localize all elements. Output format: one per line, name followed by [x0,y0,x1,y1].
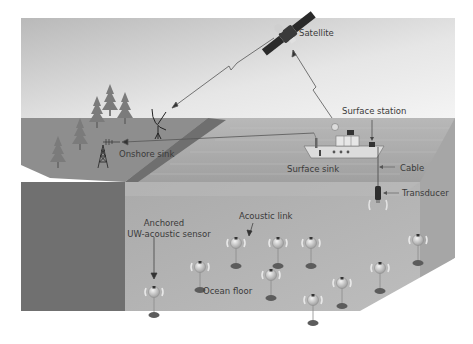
land-cliff [21,182,125,311]
label-onshore-sink: Onshore sink [119,149,174,159]
label-anchored-sensor-line1: Anchored [134,218,194,228]
sky [21,18,455,118]
label-ocean-floor: Ocean floor [203,286,252,296]
label-surface-sink: Surface sink [287,164,339,174]
label-satellite: Satellite [299,28,334,38]
label-acoustic-link: Acoustic link [239,211,292,221]
label-transducer: Transducer [402,188,449,198]
label-anchored-sensor-line2: UW-acoustic sensor [124,229,214,239]
label-surface-station: Surface station [342,106,406,116]
label-cable: Cable [400,163,424,173]
